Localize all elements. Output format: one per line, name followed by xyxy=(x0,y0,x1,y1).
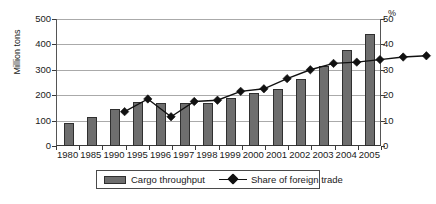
y-tick-left-0: 0 xyxy=(17,141,51,151)
chart-legend: Cargo throughput Share of foreign trade xyxy=(96,170,320,189)
y-tick-left-500: 500 xyxy=(17,14,51,24)
line-diamond-swatch-icon xyxy=(219,175,247,184)
bar-1980 xyxy=(64,123,74,146)
bar-1985 xyxy=(87,117,97,146)
line-marker-2005 xyxy=(422,52,430,60)
plot-area xyxy=(56,19,381,146)
line-marker-2000 xyxy=(306,66,314,74)
y-tick-left-400: 400 xyxy=(17,39,51,49)
line-marker-2004 xyxy=(399,53,407,61)
line-marker-1997 xyxy=(236,87,244,95)
y-tickmark-right-50 xyxy=(381,19,385,20)
y-tick-left-300: 300 xyxy=(17,65,51,75)
line-markers xyxy=(120,52,430,121)
line-marker-2003 xyxy=(376,55,384,63)
line-marker-1998 xyxy=(260,85,268,93)
legend-label-share-of-foreign-trade: Share of foreign trade xyxy=(251,174,343,185)
y-tick-left-200: 200 xyxy=(17,90,51,100)
x-tick-label-2005: 2005 xyxy=(354,149,384,160)
line-marker-1995 xyxy=(190,97,198,105)
legend-label-cargo-throughput: Cargo throughput xyxy=(131,174,205,185)
line-series-share-of-foreign-trade xyxy=(113,38,436,165)
y-tick-left-100: 100 xyxy=(17,116,51,126)
line-marker-1996 xyxy=(213,96,221,104)
gridline-500 xyxy=(57,19,380,20)
y-tick-right-50: 50 xyxy=(383,14,409,24)
line-marker-1980 xyxy=(120,107,128,115)
line-path xyxy=(125,56,427,117)
bar-swatch-icon xyxy=(104,176,126,184)
legend-item-cargo-throughput: Cargo throughput xyxy=(104,171,205,188)
line-marker-1999 xyxy=(283,74,291,82)
line-marker-2001 xyxy=(329,59,337,67)
line-marker-2002 xyxy=(353,58,361,66)
legend-item-share-of-foreign-trade: Share of foreign trade xyxy=(219,171,343,188)
